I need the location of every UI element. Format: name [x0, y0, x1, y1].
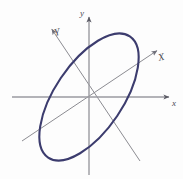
figure-canvas: y x X Y	[0, 0, 183, 179]
x-axis-label: x	[171, 98, 176, 108]
y-axis-label: y	[79, 8, 84, 18]
ellipse-rotated-axes-figure: y x X Y	[0, 0, 183, 179]
figure-background	[0, 0, 183, 179]
